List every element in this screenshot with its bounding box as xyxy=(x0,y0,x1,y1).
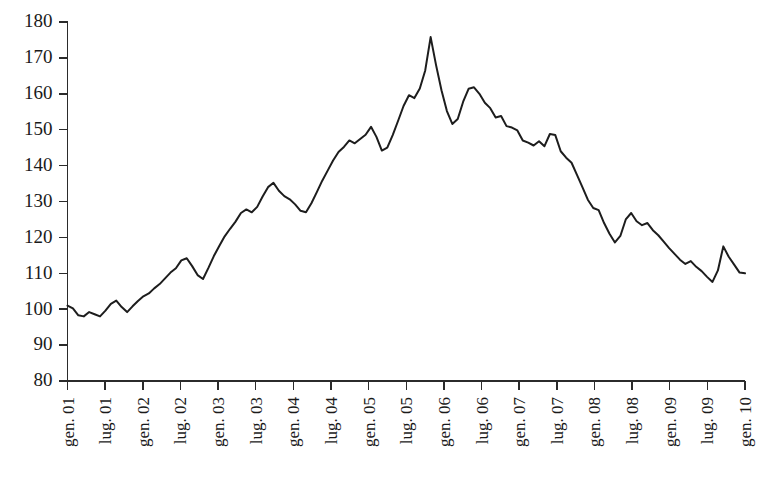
y-tick-label: 140 xyxy=(24,154,53,175)
y-tick-label: 110 xyxy=(25,262,53,283)
x-tick-label: gen. 10 xyxy=(736,397,755,447)
x-tick-label: lug. 08 xyxy=(623,397,642,444)
y-tick-label: 150 xyxy=(24,118,53,139)
y-tick-label: 160 xyxy=(24,82,53,103)
x-tick-label: gen. 03 xyxy=(209,397,228,447)
y-tick-label: 100 xyxy=(24,298,53,319)
x-tick-label: lug. 03 xyxy=(247,397,266,444)
x-tick-label: gen. 01 xyxy=(59,397,78,447)
line-chart: 8090100110120130140150160170180 gen. 01l… xyxy=(0,0,766,481)
y-tick-label: 180 xyxy=(24,10,53,31)
x-tick-label: lug. 05 xyxy=(397,397,416,444)
x-axis: gen. 01lug. 01gen. 02lug. 02gen. 03lug. … xyxy=(59,381,756,447)
x-tick-label: gen. 06 xyxy=(435,397,454,447)
y-tick-label: 170 xyxy=(24,46,53,67)
y-tick-label: 120 xyxy=(24,226,53,247)
x-tick-label: lug. 01 xyxy=(96,397,115,444)
y-tick-label: 130 xyxy=(24,190,53,211)
x-tick-label: lug. 07 xyxy=(548,397,567,445)
x-tick-label: lug. 06 xyxy=(473,397,492,444)
series-line-indice xyxy=(68,37,746,316)
y-axis: 8090100110120130140150160170180 xyxy=(24,10,68,390)
y-tick-label: 90 xyxy=(34,333,53,354)
x-tick-label: gen. 02 xyxy=(134,397,153,447)
x-tick-label: gen. 08 xyxy=(585,397,604,447)
chart-container: 8090100110120130140150160170180 gen. 01l… xyxy=(0,0,766,481)
x-tick-label: lug. 09 xyxy=(698,397,717,444)
x-tick-label: gen. 04 xyxy=(284,397,303,448)
x-tick-label: gen. 05 xyxy=(360,397,379,447)
x-tick-label: gen. 07 xyxy=(510,397,529,448)
data-series-indice xyxy=(68,37,746,316)
y-tick-label: 80 xyxy=(34,369,53,390)
x-tick-label: lug. 02 xyxy=(171,397,190,444)
x-tick-label: lug. 04 xyxy=(322,397,341,445)
x-tick-label: gen. 09 xyxy=(661,397,680,447)
